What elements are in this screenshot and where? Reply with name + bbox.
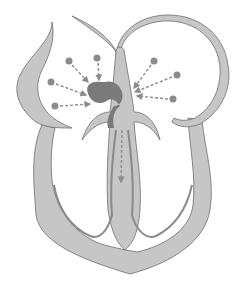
signal-dot — [151, 58, 158, 65]
signal-dot — [94, 55, 101, 62]
heart-diagram — [0, 0, 232, 282]
signal-arrow — [60, 104, 90, 106]
signal-dot — [66, 58, 73, 65]
signal-arrow — [134, 65, 151, 88]
interventricular-septum — [82, 47, 160, 250]
signal-arrow — [137, 96, 168, 99]
left-atrial-flap — [72, 16, 118, 55]
signal-dot — [48, 79, 55, 86]
left-atrium-wall — [17, 22, 72, 128]
heart-diagram-svg — [0, 0, 232, 282]
signal-arrow — [56, 84, 86, 95]
signal-dot — [174, 72, 181, 79]
signal-arrow — [98, 63, 99, 80]
signal-dot — [170, 96, 177, 103]
signal-dot — [52, 103, 59, 110]
signal-arrow — [72, 65, 88, 82]
